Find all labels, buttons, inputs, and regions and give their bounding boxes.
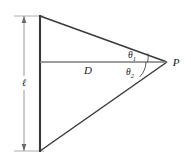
angle-theta2-label: θ2 <box>126 67 135 79</box>
angle-arc-theta2 <box>140 62 147 77</box>
diagram-canvas: ℓ D P θ1 θ2 <box>0 0 191 166</box>
lower-slant-line <box>40 62 167 151</box>
point-p-label: P <box>172 56 180 68</box>
theta1-subscript: 1 <box>133 55 136 62</box>
geometry-figure: ℓ D P θ1 θ2 <box>0 0 191 166</box>
dimension-arrow-down-icon <box>22 144 27 151</box>
length-label: ℓ <box>22 77 26 88</box>
angle-theta1-label: θ1 <box>128 50 136 62</box>
dimension-arrow-up-icon <box>22 16 27 23</box>
theta2-subscript: 2 <box>131 72 135 79</box>
distance-label: D <box>83 64 92 76</box>
